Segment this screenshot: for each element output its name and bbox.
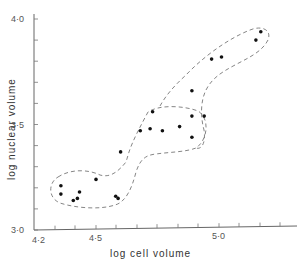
data-point <box>119 150 123 154</box>
cluster-3-outline <box>160 28 269 148</box>
data-point <box>78 190 82 194</box>
data-point <box>220 55 224 59</box>
data-point <box>139 129 143 133</box>
x-axis-label: log cell volume <box>110 248 191 259</box>
y-ticks <box>34 19 38 230</box>
data-point <box>94 178 98 182</box>
x-tick-label-5-0: 5·0 <box>212 231 225 241</box>
data-point <box>59 184 63 188</box>
data-point <box>148 127 152 131</box>
data-point <box>161 129 165 133</box>
x-tick-label-4-5: 4·5 <box>89 233 102 243</box>
data-point <box>190 114 194 118</box>
data-point <box>254 38 258 42</box>
scatter-chart: 4·0 3·5 3·0 4·2 4·5 5·0 log cell volume … <box>0 0 303 260</box>
data-point <box>190 89 194 93</box>
x-axis <box>34 226 297 230</box>
data-point <box>178 125 182 129</box>
x-tick-labels: 4·2 4·5 5·0 <box>32 231 225 245</box>
data-point <box>202 114 206 118</box>
data-point <box>210 57 214 61</box>
y-axis-label: log nuclear volume <box>6 78 17 180</box>
y-tick-label-3-0: 3·0 <box>11 225 24 235</box>
data-point <box>72 199 76 203</box>
data-point <box>59 192 63 196</box>
x-tick-label-4-2: 4·2 <box>32 235 45 245</box>
cluster-1-outline <box>51 107 206 208</box>
data-points <box>59 30 263 202</box>
x-ticks <box>55 222 280 229</box>
data-point <box>190 135 194 139</box>
cluster-outlines <box>51 28 269 208</box>
data-point <box>259 30 263 34</box>
data-point <box>151 110 155 114</box>
y-tick-label-4-0: 4·0 <box>11 14 24 24</box>
data-point <box>116 197 120 201</box>
data-point <box>76 197 80 201</box>
